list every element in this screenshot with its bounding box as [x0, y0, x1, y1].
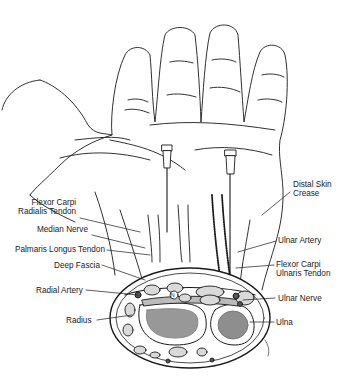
- needle-right: [225, 150, 236, 285]
- label-ulna: Ulna: [276, 318, 293, 327]
- label-median-nerve: Median Nerve: [37, 225, 88, 234]
- needle-left: [162, 145, 172, 232]
- label-ulnar-artery: Ulnar Artery: [278, 236, 321, 245]
- label-line: Flexor Carpi: [18, 198, 76, 207]
- wrist-cross-section: [110, 268, 270, 368]
- label-ulnar-nerve: Ulnar Nerve: [278, 294, 322, 303]
- label-line: Ulnaris Tendon: [276, 269, 330, 278]
- label-line: Crease: [293, 189, 332, 198]
- nerve-marker: N: [171, 291, 175, 300]
- label-palmaris-longus-tendon: Palmaris Longus Tendon: [15, 245, 105, 254]
- label-deep-fascia: Deep Fascia: [54, 261, 100, 270]
- label-line: Distal Skin: [293, 180, 332, 189]
- label-flexor-carpi-radialis: Flexor Carpi Radialis Tendon: [18, 198, 76, 216]
- label-line: Flexor Carpi: [276, 260, 330, 269]
- label-distal-skin-crease: Distal Skin Crease: [293, 180, 332, 198]
- label-radial-artery: Radial Artery: [36, 286, 83, 295]
- label-flexor-carpi-ulnaris: Flexor Carpi Ulnaris Tendon: [276, 260, 330, 278]
- label-line: Radialis Tendon: [18, 207, 76, 216]
- wrist-anatomy-figure: Flexor Carpi Radialis Tendon Median Nerv…: [0, 0, 349, 378]
- label-radius: Radius: [66, 316, 92, 325]
